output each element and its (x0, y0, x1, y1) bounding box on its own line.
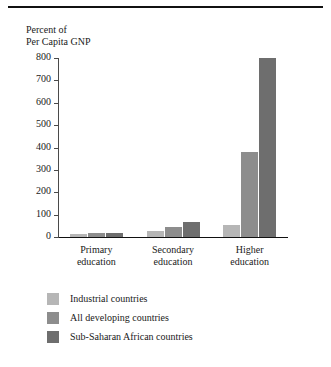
legend-swatch (47, 293, 59, 305)
category-label-line: Higher (211, 244, 288, 256)
chart-axis-title: Percent of Per Capita GNP (26, 24, 90, 48)
plot-area: 8007006005004003002001000 Primaryeducati… (58, 58, 288, 237)
bar (106, 233, 123, 237)
axis-title-line-1: Percent of (26, 24, 90, 36)
bar (165, 227, 182, 237)
category-label-line: education (211, 256, 288, 268)
y-axis-tick-label: 500 (36, 118, 51, 130)
y-axis-tick-mark (54, 58, 59, 59)
category-label-line: Primary (58, 244, 135, 256)
bar (147, 231, 164, 237)
x-axis-line (58, 237, 288, 238)
bar (259, 58, 276, 237)
y-axis-tick-mark (54, 125, 59, 126)
y-axis-tick-mark (54, 80, 59, 81)
category-label: Secondaryeducation (135, 244, 212, 268)
bar (70, 234, 87, 237)
y-axis-tick-mark (54, 215, 59, 216)
legend-swatch (47, 312, 59, 324)
category-label: Highereducation (211, 244, 288, 268)
legend-item: All developing countries (47, 310, 193, 326)
bar (241, 152, 258, 237)
y-axis-tick-mark (54, 103, 59, 104)
legend-label: All developing countries (70, 312, 169, 324)
y-axis-tick-mark (54, 148, 59, 149)
bar (183, 222, 200, 237)
y-axis-tick-label: 200 (36, 185, 51, 197)
y-axis-tick-label: 700 (36, 73, 51, 85)
chart-figure: Percent of Per Capita GNP 80070060050040… (0, 0, 331, 367)
category-label-line: Secondary (135, 244, 212, 256)
y-axis-tick-mark (54, 192, 59, 193)
y-axis-tick-label: 100 (36, 208, 51, 220)
category-label: Primaryeducation (58, 244, 135, 268)
y-axis-tick-label: 300 (36, 163, 51, 175)
y-axis-tick-label: 400 (36, 141, 51, 153)
axis-title-line-2: Per Capita GNP (26, 36, 90, 48)
legend-label: Sub-Saharan African countries (70, 331, 193, 343)
top-rule-divider (8, 6, 323, 8)
bar (223, 225, 240, 237)
y-axis-tick-mark (54, 170, 59, 171)
bar (88, 233, 105, 237)
legend-label: Industrial countries (70, 293, 147, 305)
y-axis-tick-mark (54, 237, 59, 238)
category-label-line: education (58, 256, 135, 268)
category-label-line: education (135, 256, 212, 268)
legend-item: Industrial countries (47, 291, 193, 307)
y-axis-tick-label: 800 (36, 51, 51, 63)
y-axis-tick-label: 600 (36, 96, 51, 108)
y-axis-tick-label: 0 (46, 230, 51, 242)
legend-item: Sub-Saharan African countries (47, 329, 193, 345)
legend-swatch (47, 331, 59, 343)
chart-legend: Industrial countriesAll developing count… (47, 291, 193, 348)
